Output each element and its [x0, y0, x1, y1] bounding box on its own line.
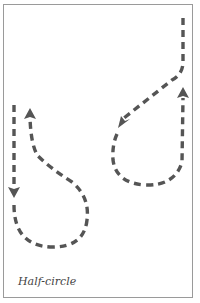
right-loop-path — [113, 98, 183, 185]
left-loop-path — [14, 118, 87, 247]
arrow-up-icon — [24, 108, 36, 119]
right-entry-path — [124, 18, 183, 118]
arrow-down-left-icon — [118, 116, 130, 128]
half-circle-diagram — [0, 0, 200, 303]
arrow-down-icon — [8, 187, 20, 198]
arrow-up-icon — [177, 87, 189, 98]
figure-caption: Half-circle — [18, 275, 76, 288]
